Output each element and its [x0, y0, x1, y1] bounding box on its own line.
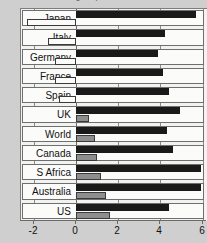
chart-row: UK [21, 105, 207, 124]
bar-light [27, 19, 76, 26]
x-tick-label-0: 0 [63, 225, 87, 236]
row-label-canada: Canada [21, 144, 75, 163]
bar-dark [76, 30, 165, 37]
x-tick-2 [117, 220, 118, 224]
row-label-uk: UK [21, 105, 75, 124]
chart-row: Italy [21, 28, 207, 47]
bar-light [59, 96, 76, 103]
x-tick-6 [202, 220, 203, 224]
bar-light [55, 58, 76, 65]
bar-light [76, 212, 110, 219]
x-tick-label-2: 2 [105, 225, 129, 236]
row-label-world: World [21, 125, 75, 144]
bar-chart: Change in price since last rate JapanIta… [0, 0, 207, 243]
bar-light [76, 154, 97, 161]
x-tick-label-4: 4 [147, 225, 171, 236]
bar-light [76, 135, 95, 142]
bar-light [55, 77, 76, 84]
x-tick--2 [33, 220, 34, 224]
bar-dark [76, 50, 158, 57]
row-label-s-africa: S Africa [21, 163, 75, 182]
chart-row: Australia [21, 182, 207, 201]
chart-row: US [21, 202, 207, 221]
bar-dark [76, 88, 169, 95]
bar-light [76, 173, 101, 180]
bar-dark [76, 165, 201, 172]
bar-dark [76, 146, 173, 153]
bar-dark [76, 69, 163, 76]
bar-dark [76, 184, 201, 191]
bar-dark [76, 204, 169, 211]
chart-row: World [21, 125, 207, 144]
bar-light [76, 115, 89, 122]
bar-dark [76, 11, 196, 18]
bar-dark [76, 127, 167, 134]
bar-light [48, 38, 75, 45]
x-tick-4 [159, 220, 160, 224]
chart-row: Germany [21, 48, 207, 67]
row-label-us: US [21, 202, 75, 221]
chart-row: Spain [21, 86, 207, 105]
chart-row: France [21, 67, 207, 86]
chart-row: S Africa [21, 163, 207, 182]
bar-light [76, 192, 106, 199]
chart-title: Change in price since last rate [0, 0, 207, 1]
chart-title-text: Change in price since last rate [57, 0, 165, 1]
plot-area: JapanItalyGermanyFranceSpainUKWorldCanad… [20, 8, 207, 221]
chart-row: Canada [21, 144, 207, 163]
x-tick-label--2: -2 [21, 225, 45, 236]
x-tick-0 [75, 220, 76, 224]
x-axis-line [20, 220, 206, 221]
chart-row: Japan [21, 9, 207, 28]
row-label-australia: Australia [21, 182, 75, 201]
x-tick-label-6: 6 [190, 225, 207, 236]
bar-dark [76, 107, 180, 114]
